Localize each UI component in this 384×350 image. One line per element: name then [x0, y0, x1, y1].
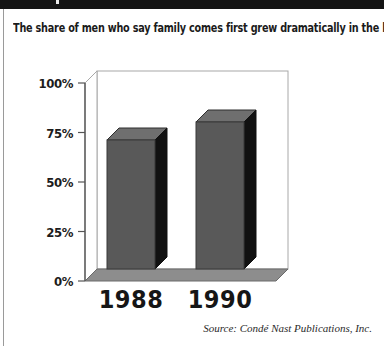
plot-left-wall — [85, 71, 97, 281]
plot-floor — [85, 269, 288, 281]
source-credit: Source: Condé Nast Publications, Inc. — [203, 322, 372, 334]
y-tick-label-75: 75% — [46, 126, 73, 141]
bar-1988-side — [155, 128, 167, 269]
y-tick-label-50: 50% — [46, 175, 73, 190]
y-tick-label-25: 25% — [46, 225, 73, 240]
bar-1988-front — [107, 140, 155, 269]
chart-canvas: 100% 75% 50% 25% 0% 1988 1990 — [0, 62, 384, 312]
y-axis-ticks — [78, 83, 85, 281]
bar-1990-front — [196, 122, 244, 269]
header-band — [0, 0, 384, 9]
header-band-mark — [56, 0, 59, 4]
bar-1988[interactable] — [107, 128, 167, 269]
bar-chart: 100% 75% 50% 25% 0% 1988 1990 — [0, 62, 384, 312]
bar-1990-side — [244, 110, 256, 269]
x-label-1990: 1990 — [188, 285, 253, 312]
y-tick-label-0: 0% — [54, 274, 74, 289]
y-tick-label-100: 100% — [38, 76, 73, 91]
page-title: The share of men who say family comes fi… — [13, 20, 324, 35]
x-label-1988: 1988 — [99, 285, 164, 312]
bar-1990[interactable] — [196, 110, 256, 269]
figure-card: The share of men who say family comes fi… — [0, 0, 384, 350]
